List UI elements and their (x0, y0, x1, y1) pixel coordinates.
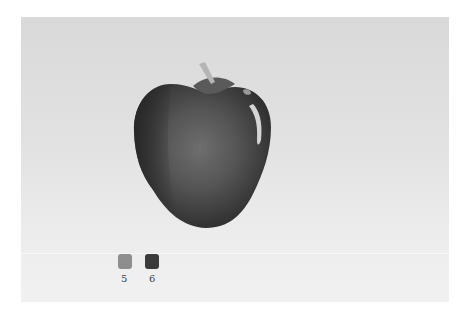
color-swatch-5 (118, 254, 132, 269)
apple-painting (131, 62, 281, 232)
apple-illustration (131, 62, 281, 232)
swatch-label-5: 5 (121, 273, 127, 284)
color-swatch-6 (145, 254, 159, 269)
watercolor-paper: 5 6 (21, 17, 449, 302)
swatch-label-6: 6 (149, 273, 155, 284)
